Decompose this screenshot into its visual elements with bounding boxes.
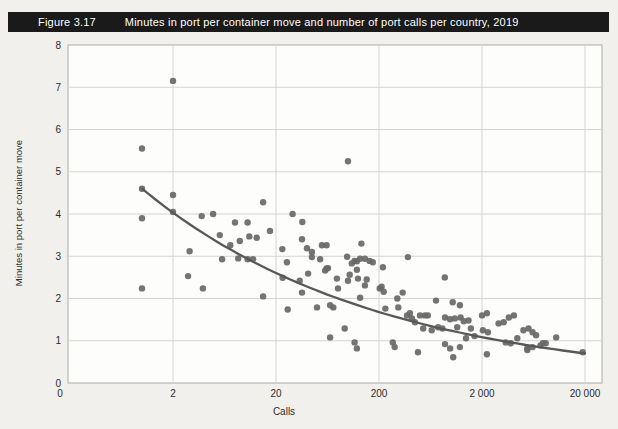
data-point [364,276,370,282]
data-point [415,349,421,355]
data-point [394,295,400,301]
data-point [540,340,546,346]
y-tick-label: 5 [55,166,61,177]
data-point [347,272,353,278]
y-tick-label: 3 [55,251,61,262]
data-point [400,289,406,295]
data-point [330,304,336,310]
data-point [327,334,333,340]
x-tick-label: 20 000 [570,388,601,399]
data-point [351,339,357,345]
y-tick-label: 1 [55,335,61,346]
data-point [186,248,192,254]
data-point [450,299,456,305]
data-point [447,316,453,322]
y-tick-label: 0 [55,378,61,389]
data-point [246,233,252,239]
scatter-chart: 01234567802202002 00020 000 Minutes in p… [0,32,618,429]
data-point [533,332,539,338]
data-point [309,254,315,260]
data-point [342,325,348,331]
data-point [465,317,471,323]
data-point [139,285,145,291]
data-point [433,297,439,303]
data-point [284,259,290,265]
data-point [442,274,448,280]
data-point [139,215,145,221]
data-point [484,310,490,316]
data-point [420,325,426,331]
data-point [244,219,250,225]
data-point [381,289,387,295]
data-point [450,354,456,360]
data-point [511,312,517,318]
data-point [454,324,460,330]
data-point [442,341,448,347]
data-point [170,192,176,198]
data-point [139,145,145,151]
data-point [345,278,351,284]
data-point [354,345,360,351]
data-point [395,304,401,310]
data-point [357,295,363,301]
x-tick-label: 200 [371,388,388,399]
data-point [199,213,205,219]
report-page: Figure 3.17 Minutes in port per containe… [0,0,618,429]
data-point [457,344,463,350]
y-tick-label: 2 [55,293,61,304]
data-point [170,78,176,84]
data-point [219,256,225,262]
data-point [485,329,491,335]
data-point [299,219,305,225]
data-point [200,285,206,291]
data-point [254,235,260,241]
y-axis-title: Minutes in port per container move [13,140,24,286]
data-point [362,282,368,288]
data-point [355,275,361,281]
data-point [317,256,323,262]
x-tick-label: 20 [270,388,282,399]
y-tick-label: 6 [55,124,61,135]
data-point [514,335,520,341]
data-point [334,275,340,281]
data-point [501,319,507,325]
data-point [305,270,311,276]
data-point [524,347,530,353]
data-point [468,325,474,331]
data-point [553,334,559,340]
data-point [425,312,431,318]
data-point [260,199,266,205]
data-point [289,211,295,217]
x-tick-label: 2 000 [469,388,494,399]
data-point [392,344,398,350]
data-point [267,228,273,234]
x-axis-title: Calls [273,406,295,417]
data-point [325,265,331,271]
data-point [484,351,490,357]
data-point [382,305,388,311]
data-point [447,345,453,351]
data-point [354,267,360,273]
y-tick-label: 7 [55,82,61,93]
data-point [185,273,191,279]
data-point [370,259,376,265]
data-point [335,285,341,291]
data-point [299,236,305,242]
data-point [279,246,285,252]
data-point [285,306,291,312]
data-point [299,289,305,295]
data-point [210,211,216,217]
data-point [314,304,320,310]
data-point [457,302,463,308]
data-point [345,158,351,164]
data-point [405,254,411,260]
y-tick-label: 4 [55,209,61,220]
x-tick-label: 0 [57,388,63,399]
data-point [232,219,238,225]
data-point [217,232,223,238]
data-point [358,240,364,246]
data-point [344,254,350,260]
data-point [380,264,386,270]
data-point [323,242,329,248]
y-tick-label: 8 [55,40,61,51]
